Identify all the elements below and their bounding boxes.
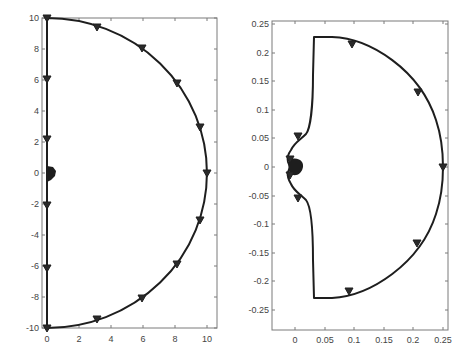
svg-text:-2: -2 — [31, 199, 39, 209]
svg-text:2: 2 — [34, 137, 39, 147]
right-x-tick-labels: 0 0.05 0.1 0.15 0.2 0.25 — [292, 335, 451, 345]
svg-text:4: 4 — [108, 334, 113, 344]
left-origin-cluster — [47, 166, 56, 182]
svg-text:-0.1: -0.1 — [253, 219, 269, 229]
svg-text:0: 0 — [44, 334, 49, 344]
svg-text:0: 0 — [34, 168, 39, 178]
svg-text:-0.05: -0.05 — [248, 191, 269, 201]
svg-text:2: 2 — [76, 334, 81, 344]
svg-text:8: 8 — [34, 44, 39, 54]
left-x-ticks — [47, 18, 207, 328]
svg-text:0.05: 0.05 — [251, 133, 269, 143]
left-axes-frame — [42, 18, 217, 328]
svg-text:0: 0 — [292, 335, 297, 345]
right-x-ticks — [295, 21, 443, 330]
svg-text:0: 0 — [264, 162, 269, 172]
right-contour-line — [288, 37, 443, 298]
left-x-tick-labels: 0 2 4 6 8 10 — [44, 334, 212, 344]
right-y-tick-labels: 0.25 0.2 0.15 0.1 0.05 0 -0.05 -0.1 -0.1… — [248, 19, 269, 315]
svg-text:4: 4 — [34, 106, 39, 116]
svg-text:6: 6 — [34, 75, 39, 85]
left-contour-line — [47, 18, 207, 328]
right-axes-frame — [272, 21, 448, 330]
svg-text:10: 10 — [29, 13, 39, 23]
svg-text:0.1: 0.1 — [348, 335, 361, 345]
left-y-ticks — [42, 18, 217, 328]
left-y-tick-labels: 10 8 6 4 2 0 -2 -4 -6 -8 -10 — [26, 13, 39, 333]
svg-text:-0.25: -0.25 — [248, 305, 269, 315]
svg-text:-6: -6 — [31, 261, 39, 271]
right-markers — [286, 41, 447, 295]
figure: 10 8 6 4 2 0 -2 -4 -6 -8 -10 0 2 4 6 8 — [0, 0, 474, 364]
svg-text:0.1: 0.1 — [256, 105, 269, 115]
left-markers — [43, 15, 211, 332]
svg-text:0.15: 0.15 — [251, 76, 269, 86]
svg-text:0.25: 0.25 — [434, 335, 452, 345]
svg-text:-0.2: -0.2 — [253, 276, 269, 286]
svg-text:-10: -10 — [26, 323, 39, 333]
svg-text:8: 8 — [172, 334, 177, 344]
svg-text:0.25: 0.25 — [251, 19, 269, 29]
svg-text:0.2: 0.2 — [407, 335, 420, 345]
left-plot: 10 8 6 4 2 0 -2 -4 -6 -8 -10 0 2 4 6 8 — [26, 13, 217, 344]
svg-text:0.15: 0.15 — [375, 335, 393, 345]
svg-text:6: 6 — [140, 334, 145, 344]
svg-text:10: 10 — [202, 334, 212, 344]
svg-text:0.05: 0.05 — [316, 335, 334, 345]
svg-text:-8: -8 — [31, 292, 39, 302]
svg-text:-4: -4 — [31, 230, 39, 240]
right-plot: 0.25 0.2 0.15 0.1 0.05 0 -0.05 -0.1 -0.1… — [248, 19, 451, 345]
svg-text:0.2: 0.2 — [256, 48, 269, 58]
svg-text:-0.15: -0.15 — [248, 248, 269, 258]
